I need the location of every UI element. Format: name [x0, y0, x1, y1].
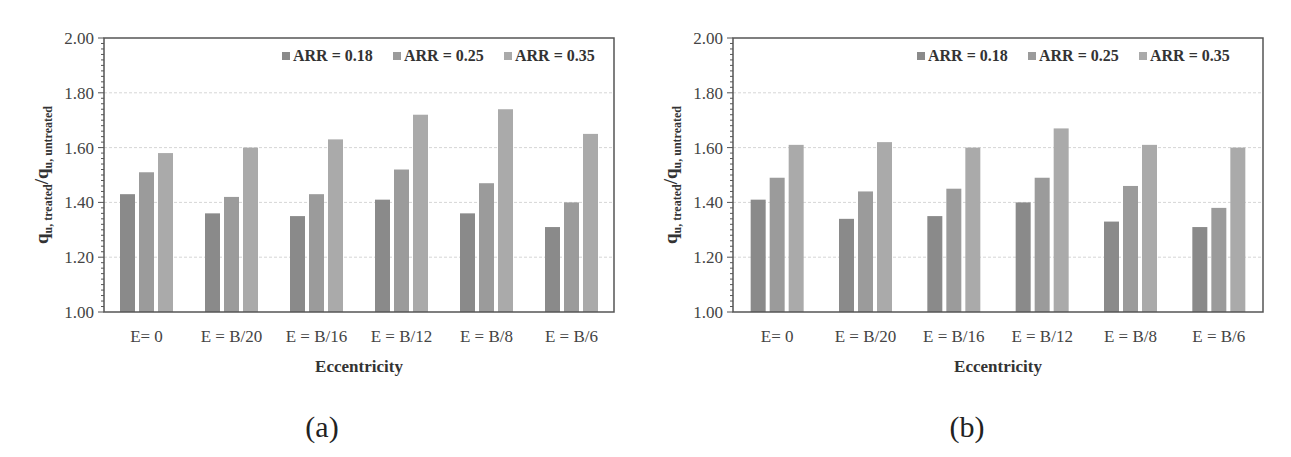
plot-frame	[733, 38, 1263, 312]
bars	[751, 128, 1246, 312]
bar	[139, 172, 154, 312]
legend-label: ARR = 0.25	[404, 47, 484, 64]
y-tick-label: 1.00	[693, 303, 723, 322]
caption-b: (b)	[950, 410, 985, 444]
y-tick-label: 1.80	[693, 84, 723, 103]
gridlines	[733, 93, 1263, 257]
bar	[770, 178, 785, 312]
x-tick-label: E = B/20	[835, 327, 897, 346]
y-axis-title: qu, treated/qu, untreated	[660, 106, 684, 244]
bar	[290, 216, 305, 312]
legend-label: ARR = 0.35	[515, 47, 595, 64]
bar	[1230, 148, 1245, 312]
chart-panel-b: E= 0E = B/20E = B/16E = B/12E = B/8E = B…	[629, 0, 1274, 400]
bar	[328, 139, 343, 312]
x-axis-title: Eccentricity	[954, 357, 1042, 376]
bar	[1123, 186, 1138, 312]
y-axis	[98, 38, 104, 312]
legend-swatch	[282, 52, 290, 60]
legend: ARR = 0.18ARR = 0.25ARR = 0.35	[917, 47, 1230, 64]
x-tick-label: E = B/6	[545, 327, 598, 346]
bar	[927, 216, 942, 312]
bar	[545, 227, 560, 312]
x-tick-label: E = B/8	[1104, 327, 1157, 346]
bar	[583, 134, 598, 312]
legend-swatch	[917, 52, 925, 60]
bar	[309, 194, 324, 312]
bar	[564, 202, 579, 312]
x-tick-label: E= 0	[761, 327, 794, 346]
bar	[224, 197, 239, 312]
bar	[789, 145, 804, 312]
y-tick-label: 1.20	[64, 248, 94, 267]
bar	[375, 200, 390, 312]
y-tick-label: 1.40	[693, 193, 723, 212]
legend-label: ARR = 0.35	[1150, 47, 1230, 64]
bar	[394, 170, 409, 312]
x-tick-label: E = B/12	[371, 327, 433, 346]
x-axis-title: Eccentricity	[315, 357, 403, 376]
bars	[120, 109, 598, 312]
chart-panel-a: E= 0E = B/20E = B/16E = B/12E = B/8E = B…	[0, 0, 645, 400]
legend-swatch	[393, 52, 401, 60]
bar	[498, 109, 513, 312]
bar	[751, 200, 766, 312]
y-tick-label: 1.00	[64, 303, 94, 322]
bar	[1211, 208, 1226, 312]
bar	[413, 115, 428, 312]
x-tick-label: E = B/20	[201, 327, 263, 346]
x-tick-label: E = B/16	[923, 327, 985, 346]
bar	[158, 153, 173, 312]
bar-chart-a: E= 0E = B/20E = B/16E = B/12E = B/8E = B…	[0, 0, 645, 400]
bar	[1192, 227, 1207, 312]
bar	[965, 148, 980, 312]
legend-label: ARR = 0.18	[928, 47, 1008, 64]
x-tick-label: E = B/12	[1011, 327, 1073, 346]
legend-swatch	[504, 52, 512, 60]
y-tick-label: 2.00	[64, 29, 94, 48]
bar	[243, 148, 258, 312]
bar	[460, 213, 475, 312]
y-axis	[727, 38, 733, 312]
y-tick-label: 1.60	[64, 139, 94, 158]
bar	[946, 189, 961, 312]
x-tick-label: E = B/6	[1192, 327, 1245, 346]
legend-label: ARR = 0.18	[293, 47, 373, 64]
bar	[1054, 128, 1069, 312]
x-tick-label: E = B/8	[460, 327, 513, 346]
y-axis-title: qu, treated/qu, untreated	[31, 106, 55, 244]
legend-swatch	[1028, 52, 1036, 60]
gridlines	[104, 93, 614, 257]
y-tick-label: 1.40	[64, 193, 94, 212]
bar	[205, 213, 220, 312]
y-tick-label: 1.20	[693, 248, 723, 267]
legend: ARR = 0.18ARR = 0.25ARR = 0.35	[282, 47, 595, 64]
x-tick-label: E = B/16	[286, 327, 348, 346]
y-tick-label: 1.60	[693, 139, 723, 158]
y-tick-label: 1.80	[64, 84, 94, 103]
y-tick-label: 2.00	[693, 29, 723, 48]
bar	[1142, 145, 1157, 312]
legend-label: ARR = 0.25	[1039, 47, 1119, 64]
plot-frame	[104, 38, 614, 312]
bar-chart-b: E= 0E = B/20E = B/16E = B/12E = B/8E = B…	[629, 0, 1291, 400]
bar	[120, 194, 135, 312]
bar	[839, 219, 854, 312]
bar	[1035, 178, 1050, 312]
bar	[858, 191, 873, 312]
bar	[1016, 202, 1031, 312]
legend-swatch	[1139, 52, 1147, 60]
x-tick-label: E= 0	[130, 327, 163, 346]
caption-a: (a)	[305, 410, 338, 444]
bar	[1104, 222, 1119, 312]
bar	[877, 142, 892, 312]
bar	[479, 183, 494, 312]
